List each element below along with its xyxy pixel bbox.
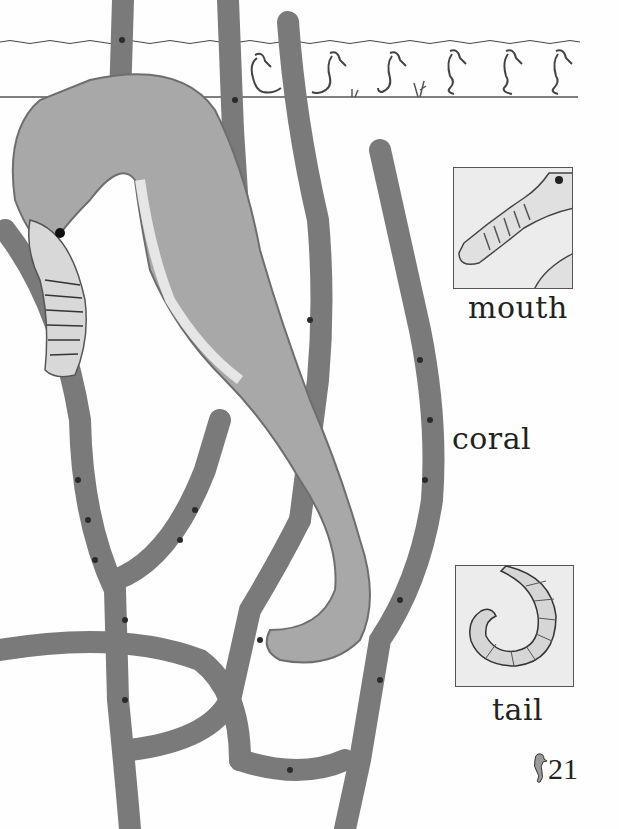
coral-label: coral xyxy=(452,421,531,456)
page-number: 21 xyxy=(530,752,578,784)
page-number-text: 21 xyxy=(548,754,578,784)
book-page: mouth coral tail 21 xyxy=(0,0,619,829)
mouth-label: mouth xyxy=(468,290,568,325)
seahorse-icon xyxy=(530,752,548,784)
mouth-closeup-drawing xyxy=(454,168,573,289)
mouth-closeup-inset xyxy=(453,167,573,289)
seahorse-eye xyxy=(55,228,65,238)
tail-closeup-inset xyxy=(455,565,574,687)
tail-closeup-drawing xyxy=(456,566,574,687)
tail-label: tail xyxy=(492,692,543,727)
